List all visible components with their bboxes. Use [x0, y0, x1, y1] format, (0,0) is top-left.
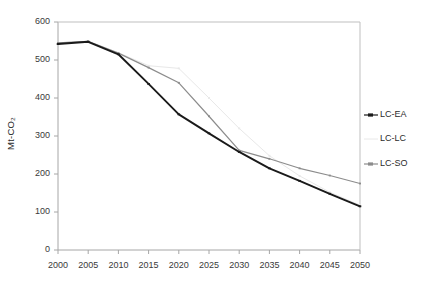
x-tick-label: 2005 — [71, 260, 105, 270]
x-tick-label: 2035 — [252, 260, 286, 270]
legend-item-lc-lc[interactable]: LC-LC — [380, 133, 406, 143]
x-tick-label: 2015 — [132, 260, 166, 270]
y-tick-label: 300 — [20, 130, 50, 140]
y-tick-label: 0 — [20, 244, 50, 254]
axis-tickmarks — [54, 22, 360, 254]
chart-plot-area — [0, 0, 422, 289]
y-tick-label: 400 — [20, 92, 50, 102]
y-tick-label: 500 — [20, 54, 50, 64]
legend-item-lc-so[interactable]: LC-SO — [380, 158, 408, 168]
x-tick-label: 2020 — [162, 260, 196, 270]
chart-figure: Mt-CO₂ 0100200300400500600 2000200520102… — [0, 0, 422, 289]
x-tick-label: 2040 — [283, 260, 317, 270]
legend-markers — [364, 113, 378, 165]
x-tick-label: 2000 — [41, 260, 75, 270]
plot-frame — [58, 22, 360, 250]
legend-item-lc-ea[interactable]: LC-EA — [380, 109, 407, 119]
x-tick-label: 2030 — [222, 260, 256, 270]
y-tick-label: 200 — [20, 168, 50, 178]
y-tick-label: 600 — [20, 16, 50, 26]
x-tick-label: 2010 — [101, 260, 135, 270]
y-axis-title: Mt-CO₂ — [5, 108, 16, 160]
x-tick-label: 2025 — [192, 260, 226, 270]
y-tick-label: 100 — [20, 206, 50, 216]
x-tick-label: 2050 — [343, 260, 377, 270]
data-series-group — [57, 40, 362, 207]
x-tick-label: 2045 — [313, 260, 347, 270]
